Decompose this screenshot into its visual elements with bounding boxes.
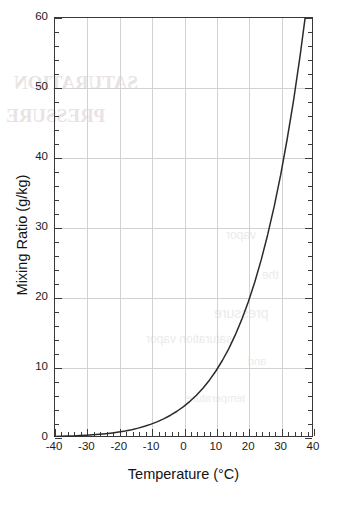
series-line — [54, 0, 313, 436]
x-tick-major — [314, 429, 315, 436]
y-tick-major-right — [305, 438, 312, 439]
y-tick-label: 50 — [14, 81, 48, 93]
data-series-layer — [54, 17, 313, 437]
y-tick-label: 0 — [14, 431, 48, 443]
x-axis-title: Temperature (°C) — [54, 466, 313, 482]
y-tick-label: 60 — [14, 11, 48, 23]
y-axis-title: Mixing Ratio (g/kg) — [14, 105, 30, 365]
y-tick-major — [55, 438, 62, 439]
x-tick-label: 40 — [293, 441, 333, 453]
mixing-ratio-chart: -40-30-20-10010203040 0102030405060 Temp… — [0, 0, 338, 506]
